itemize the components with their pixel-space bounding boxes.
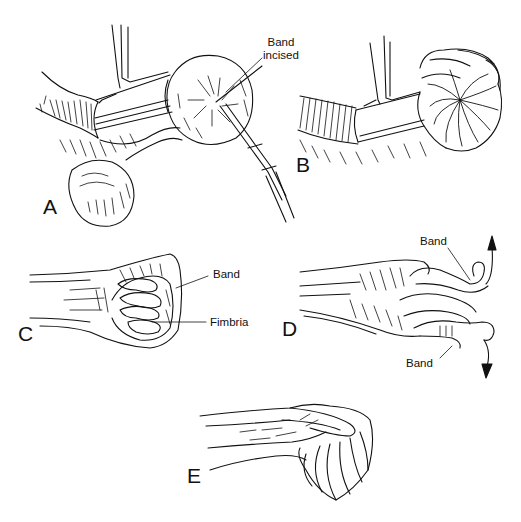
callout-c-band: Band (213, 268, 240, 281)
callout-band-incised-line2: incised (263, 49, 299, 62)
panel-label-c: C (18, 323, 33, 344)
callout-c-fimbria: Fimbria (210, 316, 248, 329)
panel-label-a: A (43, 196, 57, 217)
panel-label-e: E (187, 465, 201, 486)
surgical-illustration-figure: A B C D E Band incised Band Fimbria Band… (0, 0, 521, 522)
callout-band-incised: Band incised (263, 36, 299, 62)
panel-b-drawing (298, 36, 502, 164)
panel-label-b: B (296, 154, 310, 175)
panel-e-drawing (200, 404, 373, 500)
panel-c-drawing (30, 254, 208, 348)
callout-d-band-lower: Band (406, 357, 433, 370)
callout-band-incised-line1: Band (263, 36, 299, 49)
panel-label-d: D (282, 318, 297, 339)
panel-a-drawing (36, 25, 294, 226)
everted-fimbria (418, 49, 502, 151)
line-art (0, 0, 521, 522)
callout-d-band-upper: Band (420, 235, 447, 248)
panel-d-drawing (300, 236, 496, 378)
